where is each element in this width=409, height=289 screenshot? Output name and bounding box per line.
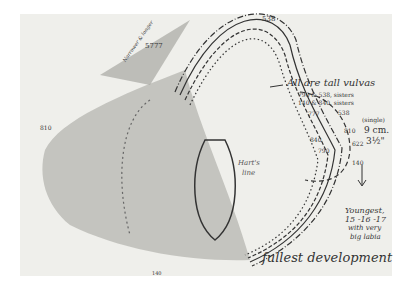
label-all-tall: All are tall vulvas bbox=[287, 78, 375, 88]
figure-frame: 538 5777 Narrower & longer All are tall … bbox=[0, 0, 409, 289]
label-5777: 5777 bbox=[145, 43, 163, 50]
label-line: line bbox=[242, 170, 255, 177]
label-sisters-2: 140 & 840, sisters bbox=[298, 100, 354, 106]
label-810-left: 810 bbox=[40, 125, 51, 131]
label-140-bottom: 140 bbox=[152, 271, 162, 276]
label-140-right: 140 bbox=[352, 160, 363, 166]
shaded-region bbox=[42, 70, 250, 260]
label-harts: Hart's bbox=[238, 160, 260, 167]
label-538-top: 538 bbox=[262, 16, 275, 23]
label-youngest-4: big labia bbox=[350, 234, 381, 241]
label-777: 777 bbox=[308, 111, 319, 117]
label-622: 622 bbox=[352, 141, 363, 147]
label-inches: 3½" bbox=[366, 137, 385, 146]
label-810-right: 810 bbox=[344, 128, 355, 134]
down-arrow-icon bbox=[358, 165, 366, 186]
label-538-right: 538 bbox=[338, 110, 349, 116]
label-youngest-3: with very bbox=[348, 225, 381, 232]
label-sisters-1: 790 & 538, sisters bbox=[298, 92, 354, 98]
label-youngest-2: 15 -16 -17 bbox=[345, 216, 386, 224]
label-840: 840 bbox=[310, 137, 321, 143]
label-youngest-1: Youngest, bbox=[345, 207, 384, 215]
outline-diagram bbox=[0, 0, 409, 289]
caption: fullest development bbox=[262, 251, 392, 264]
label-single: (single) bbox=[362, 117, 385, 123]
label-790: 790 bbox=[318, 148, 329, 154]
arrow-icon bbox=[270, 85, 283, 87]
label-9cm: 9 cm. bbox=[364, 126, 389, 135]
